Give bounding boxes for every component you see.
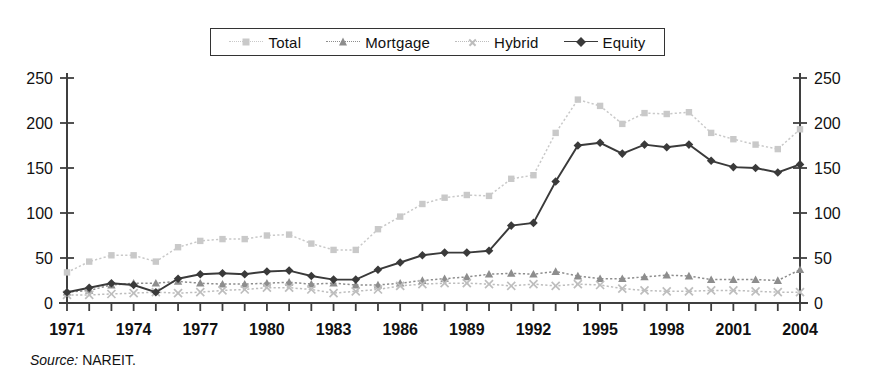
square-marker [64, 269, 70, 275]
square-marker [330, 247, 336, 253]
x-tick-label: 1980 [249, 321, 285, 338]
diamond-marker [307, 272, 316, 281]
diamond-marker [640, 140, 649, 149]
triangle-marker [774, 276, 782, 284]
x-tick-label: 1995 [582, 321, 618, 338]
right-y-tick-label: 200 [814, 115, 841, 132]
square-marker [508, 176, 514, 182]
triangle-marker [551, 267, 559, 275]
left-y-tick-label: 100 [26, 205, 53, 222]
diamond-marker [729, 163, 738, 172]
square-marker [597, 103, 603, 109]
square-marker [108, 252, 114, 258]
x-marker [485, 280, 493, 288]
square-marker [264, 232, 270, 238]
diamond-marker [551, 177, 560, 186]
x-marker [196, 288, 204, 296]
left-y-tick-label: 250 [26, 70, 53, 87]
right-y-tick-label: 0 [814, 295, 823, 312]
right-y-tick-label: 150 [814, 160, 841, 177]
source-prefix: Source: [30, 352, 78, 368]
square-marker [730, 136, 736, 142]
x-marker [507, 282, 515, 290]
right-y-tick-label: 250 [814, 70, 841, 87]
square-marker [308, 240, 314, 246]
triangle-marker [751, 275, 759, 283]
square-marker [441, 195, 447, 201]
square-marker [353, 247, 359, 253]
series-total [64, 96, 803, 275]
diamond-marker [374, 265, 383, 274]
square-marker [686, 109, 692, 115]
square-marker [619, 121, 625, 127]
triangle-marker [796, 266, 804, 274]
x-tick-label: 1977 [182, 321, 218, 338]
source-text: NAREIT. [82, 352, 136, 368]
diamond-marker [240, 270, 249, 279]
square-marker [552, 130, 558, 136]
diamond-marker [396, 258, 405, 267]
square-marker [530, 172, 536, 178]
diamond-marker [107, 279, 116, 288]
diamond-marker [440, 248, 449, 257]
left-y-tick-label: 200 [26, 115, 53, 132]
right-y-tick-label: 50 [814, 250, 832, 267]
triangle-marker [485, 270, 493, 278]
square-marker [241, 236, 247, 242]
x-marker [529, 280, 537, 288]
diamond-marker [218, 269, 227, 278]
left-y-tick-label: 50 [35, 250, 53, 267]
diamond-marker [751, 164, 760, 173]
x-tick-label: 1986 [382, 321, 418, 338]
diamond-marker [196, 270, 205, 279]
square-marker [464, 192, 470, 198]
x-tick-label: 2001 [716, 321, 752, 338]
right-y-tick-label: 100 [814, 205, 841, 222]
x-tick-label: 1983 [316, 321, 352, 338]
square-marker [175, 244, 181, 250]
square-marker [775, 146, 781, 152]
square-marker [153, 258, 159, 264]
diamond-marker [351, 275, 360, 284]
triangle-marker [574, 272, 582, 280]
diamond-marker [263, 267, 272, 276]
square-marker [641, 110, 647, 116]
diamond-marker [129, 281, 138, 290]
x-tick-label: 1971 [49, 321, 85, 338]
diamond-marker [773, 168, 782, 177]
left-y-tick-label: 0 [44, 295, 53, 312]
x-tick-label: 1992 [516, 321, 552, 338]
x-tick-label: 2004 [782, 321, 818, 338]
square-marker [397, 213, 403, 219]
plot-area: 0050501001001501502002002502501971197419… [0, 0, 871, 389]
square-marker [219, 236, 225, 242]
diamond-marker [285, 266, 294, 275]
x-tick-label: 1989 [449, 321, 485, 338]
square-marker [197, 238, 203, 244]
x-marker [130, 289, 138, 297]
diamond-marker [596, 139, 605, 148]
diamond-marker [574, 141, 583, 150]
left-y-tick-label: 150 [26, 160, 53, 177]
square-marker [752, 141, 758, 147]
series-line [67, 143, 800, 292]
x-tick-label: 1998 [649, 321, 685, 338]
square-marker [130, 252, 136, 258]
square-marker [708, 130, 714, 136]
diamond-marker [662, 143, 671, 152]
x-tick-label: 1974 [116, 321, 152, 338]
diamond-marker [418, 251, 427, 260]
square-marker [286, 231, 292, 237]
diamond-marker [463, 248, 472, 257]
diamond-marker [618, 149, 627, 158]
diamond-marker [529, 219, 538, 228]
square-marker [797, 126, 803, 132]
x-marker [174, 289, 182, 297]
reit-count-chart: Total Mortgage Hybrid Equity 00505010 [0, 0, 871, 389]
plot-svg: 0050501001001501502002002502501971197419… [0, 0, 871, 389]
square-marker [86, 258, 92, 264]
square-marker [664, 111, 670, 117]
square-marker [375, 226, 381, 232]
square-marker [486, 193, 492, 199]
source-note: Source: NAREIT. [30, 352, 136, 368]
